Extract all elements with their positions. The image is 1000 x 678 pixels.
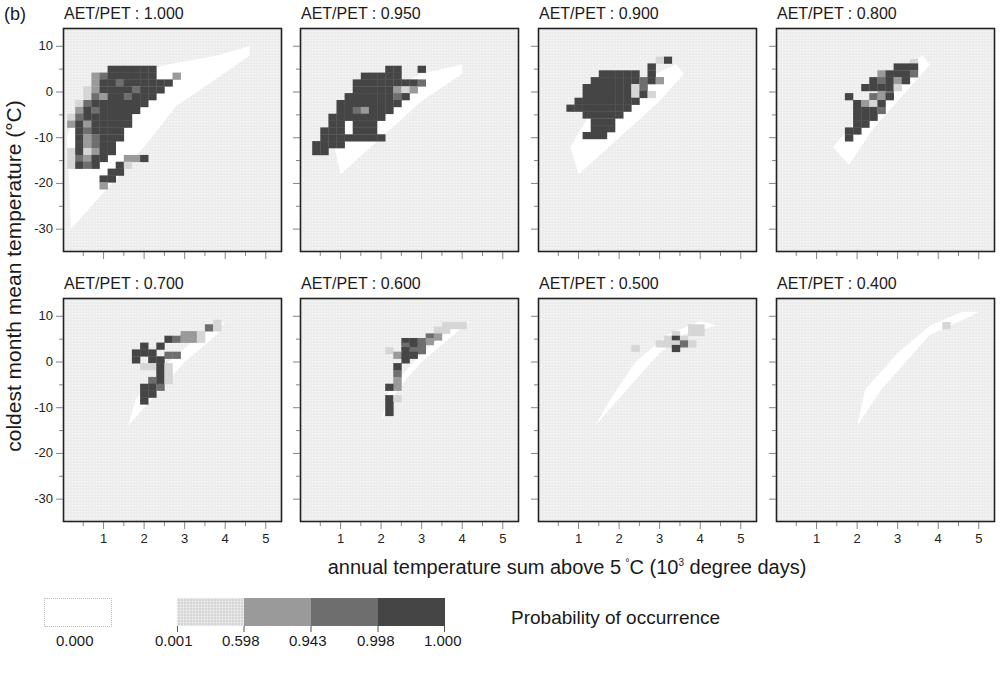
panel-title: AET/PET : 0.400 bbox=[777, 275, 897, 293]
legend-bin-2 bbox=[244, 598, 311, 626]
x-tick-label: 2 bbox=[853, 531, 860, 546]
x-tick-label: 1 bbox=[813, 531, 820, 546]
y-tick-label: 10 bbox=[39, 38, 53, 53]
legend-bin-3 bbox=[311, 598, 378, 626]
panel-title: AET/PET : 0.900 bbox=[539, 5, 659, 23]
x-tick-label: 4 bbox=[459, 531, 466, 546]
x-tick-label: 1 bbox=[337, 531, 344, 546]
y-tick-label: 0 bbox=[46, 84, 53, 99]
legend-bin-1 bbox=[177, 598, 244, 626]
legend-edge-0: 0.001 bbox=[155, 632, 193, 649]
figure-label: (b) bbox=[4, 4, 26, 25]
heatmap-panel bbox=[776, 28, 995, 252]
x-tick-label: 3 bbox=[418, 531, 425, 546]
heatmap-panel: 100-10-20-3012345 bbox=[63, 298, 282, 522]
x-tick-label: 3 bbox=[656, 531, 663, 546]
heatmap-panel: 12345 bbox=[300, 298, 519, 522]
legend-edge-2: 0.943 bbox=[289, 632, 327, 649]
panel-title: AET/PET : 0.600 bbox=[301, 275, 421, 293]
x-tick-label: 4 bbox=[222, 531, 229, 546]
x-tick-label: 1 bbox=[575, 531, 582, 546]
y-tick-label: -20 bbox=[34, 175, 53, 190]
x-axis-label-degree: ° bbox=[625, 556, 629, 568]
panel-title: AET/PET : 0.700 bbox=[64, 275, 184, 293]
legend-title: Probability of occurrence bbox=[511, 607, 720, 629]
heatmap-panel: 100-10-20-30 bbox=[63, 28, 282, 252]
legend-edge-3: 0.998 bbox=[357, 632, 395, 649]
legend-edge-1: 0.598 bbox=[222, 632, 260, 649]
x-tick-label: 2 bbox=[140, 531, 147, 546]
x-tick-label: 2 bbox=[377, 531, 384, 546]
x-tick-label: 3 bbox=[894, 531, 901, 546]
heatmap-panel: 12345 bbox=[538, 298, 757, 522]
heatmap-panel: 12345 bbox=[776, 298, 995, 522]
y-tick-label: -10 bbox=[34, 400, 53, 415]
x-tick-label: 2 bbox=[615, 531, 622, 546]
x-tick-label: 4 bbox=[697, 531, 704, 546]
x-tick-label: 1 bbox=[100, 531, 107, 546]
y-tick-label: 0 bbox=[46, 354, 53, 369]
legend-colorbar bbox=[177, 598, 445, 626]
panel-title: AET/PET : 1.000 bbox=[64, 5, 184, 23]
y-axis-label: coldest month mean temperature (°C) bbox=[2, 56, 26, 496]
x-tick-label: 5 bbox=[262, 531, 269, 546]
x-tick-label: 5 bbox=[737, 531, 744, 546]
panel-title: AET/PET : 0.800 bbox=[777, 5, 897, 23]
x-tick-label: 5 bbox=[499, 531, 506, 546]
panel-title: AET/PET : 0.950 bbox=[301, 5, 421, 23]
x-axis-label-suffix: degree days) bbox=[684, 556, 806, 578]
y-tick-label: -30 bbox=[34, 491, 53, 506]
legend-zero-label: 0.000 bbox=[56, 632, 94, 649]
x-tick-label: 5 bbox=[975, 531, 982, 546]
heatmap-panel bbox=[538, 28, 757, 252]
x-tick-label: 4 bbox=[935, 531, 942, 546]
x-axis-label: annual temperature sum above 5°C (103 de… bbox=[70, 556, 1000, 579]
x-axis-label-mid: C (10 bbox=[630, 556, 679, 578]
panel-title: AET/PET : 0.500 bbox=[539, 275, 659, 293]
legend-zero-swatch bbox=[44, 598, 112, 627]
legend-bin-4 bbox=[378, 598, 445, 626]
x-tick-label: 3 bbox=[181, 531, 188, 546]
y-tick-label: 10 bbox=[39, 308, 53, 323]
y-tick-label: -20 bbox=[34, 445, 53, 460]
y-tick-label: -10 bbox=[34, 130, 53, 145]
legend-edge-4: 1.000 bbox=[424, 632, 462, 649]
y-tick-label: -30 bbox=[34, 221, 53, 236]
x-axis-label-prefix: annual temperature sum above 5 bbox=[328, 556, 622, 578]
heatmap-panel bbox=[300, 28, 519, 252]
